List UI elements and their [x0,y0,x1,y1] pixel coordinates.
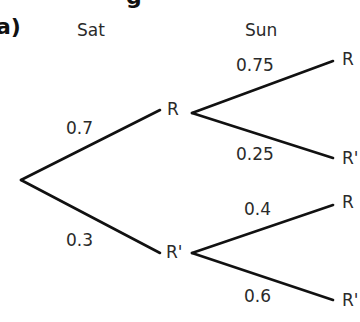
node-rprime-rprime: R' [342,290,359,310]
tree-branches [0,0,360,322]
prob-rprime-rprime: 0.6 [244,286,271,306]
node-r-rprime: R' [342,148,359,168]
prob-r-r: 0.75 [236,55,274,75]
prob-sat-r: 0.7 [66,118,93,138]
node-r-r: R [342,49,354,69]
prob-sat-rprime: 0.3 [66,230,93,250]
node-sat-r: R [167,99,179,119]
node-sat-rprime: R' [166,242,183,262]
prob-r-rprime: 0.25 [236,144,274,164]
prob-rprime-r: 0.4 [244,199,271,219]
node-rprime-r: R [342,192,354,212]
